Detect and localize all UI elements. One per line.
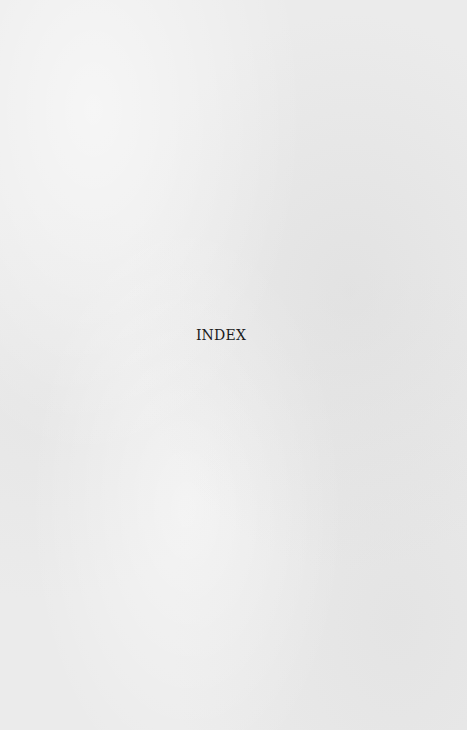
page-heading: INDEX (0, 327, 442, 343)
document-page: INDEX (0, 0, 467, 730)
